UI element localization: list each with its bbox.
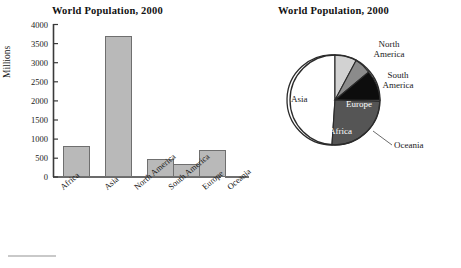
oceania-leader-line: [373, 131, 392, 145]
pie-label-north-america-line1: North: [366, 39, 412, 49]
pie-label-south-america-line1: South: [375, 70, 421, 80]
pie-label-south-america-line2: America: [375, 80, 421, 90]
pie-label-north-america: North America: [366, 39, 412, 59]
pie-chart-panel: World Population, 2000 Asia North Am: [240, 0, 461, 268]
pie-label-north-america-line2: America: [366, 49, 412, 59]
pie-label-south-america: South America: [375, 70, 421, 90]
bar-asia: [105, 36, 132, 177]
figure-world-population: World Population, 2000 Millions 4000 350…: [0, 0, 461, 268]
scan-artifact: [8, 255, 56, 257]
bar-chart-panel: World Population, 2000 Millions 4000 350…: [0, 0, 240, 268]
pie-label-oceania: Oceania: [394, 140, 423, 150]
pie-label-africa: Africa: [329, 126, 352, 136]
pie-label-europe: Europe: [346, 99, 372, 109]
pie-label-asia: Asia: [291, 94, 308, 104]
